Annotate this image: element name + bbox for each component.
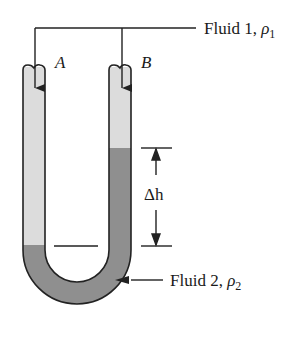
point-b-label: B bbox=[141, 53, 152, 72]
point-a-label: A bbox=[54, 53, 66, 72]
delta-h-label: Δh bbox=[144, 185, 164, 204]
fluid2-label: Fluid 2, ρ2 bbox=[170, 271, 241, 293]
fluid1-label: Fluid 1, ρ1 bbox=[204, 19, 275, 41]
manometer-diagram: Fluid 1, ρ1 A B Δh Fluid 2, ρ2 bbox=[0, 0, 306, 346]
